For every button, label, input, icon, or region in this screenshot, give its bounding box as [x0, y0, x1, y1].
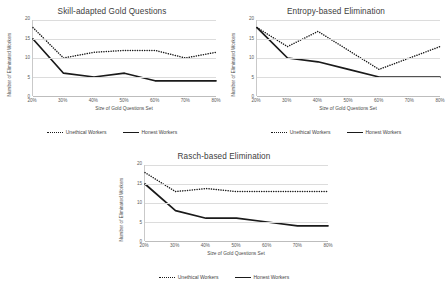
gridline — [257, 58, 440, 59]
gridline — [33, 20, 216, 21]
x-tick-label: 70% — [181, 98, 190, 103]
x-tick-label: 50% — [231, 243, 240, 248]
x-tick-label: 30% — [58, 98, 67, 103]
legend-label: Unethical Workers — [290, 129, 331, 135]
y-axis-label: Number of Eliminated Workers — [4, 18, 16, 110]
y-tick-label: 5 — [139, 219, 142, 224]
gridline — [33, 39, 216, 40]
y-tick-label: 15 — [249, 35, 254, 40]
x-axis-label: Size of Gold Questions Set — [32, 106, 216, 111]
x-axis-label: Size of Gold Questions Set — [256, 106, 440, 111]
legend-label: Unethical Workers — [66, 129, 107, 135]
dotted-line-key-icon — [159, 277, 175, 278]
chart-rasch-based-elimination: Rasch-based Elimination Number of Elimin… — [112, 145, 336, 289]
legend-item-honest-workers: Honest Workers — [347, 129, 402, 135]
chart-entropy-based-elimination: Entropy-based Elimination Number of Elim… — [224, 0, 448, 145]
y-tick-label: 10 — [249, 55, 254, 60]
x-tick-label: 40% — [89, 98, 98, 103]
y-tick-label: 10 — [25, 55, 30, 60]
y-tick-label: 15 — [137, 180, 142, 185]
gridline — [145, 203, 328, 204]
y-tick-label: 20 — [249, 16, 254, 21]
y-tick-label: 5 — [251, 74, 254, 79]
x-tick-label: 30% — [170, 243, 179, 248]
legend-label: Honest Workers — [366, 129, 402, 135]
gridline — [33, 77, 216, 78]
x-axis-label: Size of Gold Questions Set — [144, 251, 328, 256]
x-tick-label: 80% — [323, 243, 332, 248]
gridline — [257, 77, 440, 78]
series-line-honest-workers — [145, 184, 328, 226]
y-tick-label: 10 — [137, 200, 142, 205]
x-tick-label: 40% — [201, 243, 210, 248]
solid-line-key-icon — [347, 132, 363, 133]
gridline — [257, 39, 440, 40]
x-tick-label: 20% — [251, 98, 260, 103]
chart-title: Entropy-based Elimination — [224, 0, 448, 18]
gridline — [257, 96, 440, 97]
gridline — [33, 96, 216, 97]
dotted-line-key-icon — [47, 132, 63, 133]
plot-area-wrapper: Number of Eliminated Workers 05101520 20… — [230, 18, 440, 110]
plot-area-wrapper: Number of Eliminated Workers 05101520 20… — [6, 18, 216, 110]
y-axis-ticks: 05101520 — [17, 18, 31, 96]
x-tick-label: 80% — [211, 98, 220, 103]
chart-legend: Unethical Workers Honest Workers — [224, 126, 448, 138]
solid-line-key-icon — [235, 277, 251, 278]
y-tick-label: 15 — [25, 35, 30, 40]
gridline — [33, 58, 216, 59]
x-tick-label: 50% — [119, 98, 128, 103]
gridline — [257, 20, 440, 21]
gridline — [145, 241, 328, 242]
chart-title: Skill-adapted Gold Questions — [0, 0, 224, 18]
series-line-honest-workers — [257, 28, 440, 77]
dotted-line-key-icon — [271, 132, 287, 133]
x-tick-label: 40% — [313, 98, 322, 103]
y-tick-label: 20 — [25, 16, 30, 21]
series-line-unethical-workers — [257, 28, 440, 70]
legend-item-unethical-workers: Unethical Workers — [159, 274, 219, 280]
legend-label: Unethical Workers — [178, 274, 219, 280]
legend-item-honest-workers: Honest Workers — [123, 129, 178, 135]
chart-title: Rasch-based Elimination — [112, 145, 336, 163]
x-tick-label: 30% — [282, 98, 291, 103]
x-tick-label: 60% — [262, 243, 271, 248]
legend-item-honest-workers: Honest Workers — [235, 274, 290, 280]
chart-legend: Unethical Workers Honest Workers — [112, 271, 336, 283]
plot-canvas — [144, 165, 328, 241]
series-line-unethical-workers — [33, 28, 216, 58]
solid-line-key-icon — [123, 132, 139, 133]
x-tick-label: 60% — [374, 98, 383, 103]
plot-canvas — [32, 20, 216, 96]
y-axis-ticks: 05101520 — [129, 163, 143, 241]
chart-legend: Unethical Workers Honest Workers — [0, 126, 224, 138]
plot-canvas — [256, 20, 440, 96]
gridline — [145, 184, 328, 185]
gridline — [145, 165, 328, 166]
legend-label: Honest Workers — [254, 274, 290, 280]
x-tick-label: 70% — [405, 98, 414, 103]
x-tick-label: 20% — [27, 98, 36, 103]
legend-label: Honest Workers — [142, 129, 178, 135]
y-axis-label: Number of Eliminated Workers — [228, 18, 240, 110]
series-line-unethical-workers — [145, 173, 328, 192]
y-tick-label: 20 — [137, 161, 142, 166]
y-axis-ticks: 05101520 — [241, 18, 255, 96]
x-tick-label: 60% — [150, 98, 159, 103]
x-tick-label: 50% — [343, 98, 352, 103]
y-tick-label: 5 — [27, 74, 30, 79]
x-tick-label: 80% — [435, 98, 444, 103]
x-tick-label: 20% — [139, 243, 148, 248]
gridline — [145, 222, 328, 223]
y-axis-label: Number of Eliminated Workers — [116, 163, 128, 255]
x-tick-label: 70% — [293, 243, 302, 248]
plot-area-wrapper: Number of Eliminated Workers 05101520 20… — [118, 163, 328, 255]
series-line-honest-workers — [33, 39, 216, 81]
chart-skill-adapted-gold-questions: Skill-adapted Gold Questions Number of E… — [0, 0, 224, 145]
legend-item-unethical-workers: Unethical Workers — [47, 129, 107, 135]
legend-item-unethical-workers: Unethical Workers — [271, 129, 331, 135]
